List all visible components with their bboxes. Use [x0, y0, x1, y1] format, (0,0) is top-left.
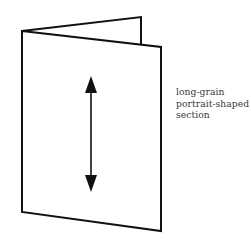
label-line-2: portrait-shaped [176, 98, 249, 110]
label-line-3: section [176, 109, 249, 121]
clipped-caption-fragment [0, 240, 251, 244]
label-line-1: long-grain [176, 86, 249, 98]
folded-section-diagram [0, 0, 251, 244]
section-label: long-grain portrait-shaped section [176, 86, 249, 121]
